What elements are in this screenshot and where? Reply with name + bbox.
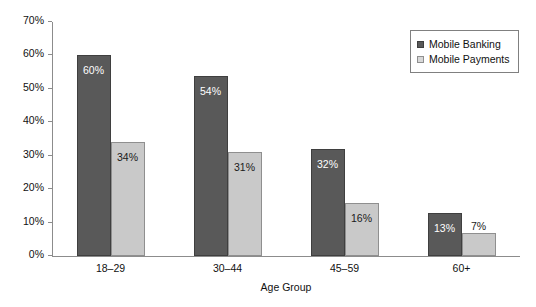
x-axis-tick-label: 30–44 (188, 262, 268, 274)
bar-value-label: 54% (195, 85, 227, 97)
y-axis-tick-label: 10% (23, 215, 44, 227)
legend-label-mobile-banking: Mobile Banking (429, 38, 501, 50)
legend-entry-mobile-payments: Mobile Payments (417, 52, 510, 66)
legend-label-mobile-payments: Mobile Payments (429, 53, 510, 65)
bar-chart: 0%10%20%30%40%50%60%70% 60%34%54%31%32%1… (0, 0, 536, 307)
bar-value-label: 34% (112, 151, 144, 163)
y-axis-tick-label: 50% (23, 81, 44, 93)
legend-swatch-icon-mobile-banking (417, 41, 424, 48)
bar[interactable]: 16% (345, 203, 379, 256)
x-axis-tick-label: 60+ (422, 262, 502, 274)
bar-value-label: 13% (429, 222, 461, 234)
bar[interactable]: 34% (111, 142, 145, 256)
y-axis-tick-label: 30% (23, 148, 44, 160)
bar[interactable]: 13% (428, 213, 462, 256)
bar[interactable]: 31% (228, 152, 262, 256)
bar-group: 32%16% (311, 22, 379, 256)
y-axis-tick-label: 40% (23, 114, 44, 126)
bar-value-label: 16% (346, 212, 378, 224)
x-axis-tick-label: 45–59 (305, 262, 385, 274)
x-axis-title: Age Group (52, 281, 520, 293)
bar-group: 60%34% (77, 22, 145, 256)
bar[interactable]: 60% (77, 55, 111, 256)
chart-legend: Mobile Banking Mobile Payments (410, 30, 519, 73)
y-axis-tick-label: 0% (29, 248, 44, 260)
y-axis-tick-label: 20% (23, 181, 44, 193)
bar[interactable]: 54% (194, 76, 228, 257)
bar[interactable]: 7% (462, 233, 496, 256)
legend-entry-mobile-banking: Mobile Banking (417, 37, 510, 51)
x-axis-tick-label: 18–29 (71, 262, 151, 274)
bar-value-label: 32% (312, 158, 344, 170)
legend-swatch-icon-mobile-payments (417, 56, 424, 63)
bar-group: 54%31% (194, 22, 262, 256)
bar-value-label: 31% (229, 161, 261, 173)
bar-value-label: 60% (78, 64, 110, 76)
y-axis-tick-label: 60% (23, 47, 44, 59)
bar-value-label: 7% (463, 220, 495, 232)
y-axis-tick-label: 70% (23, 14, 44, 26)
x-axis-line (52, 256, 520, 257)
bar[interactable]: 32% (311, 149, 345, 256)
